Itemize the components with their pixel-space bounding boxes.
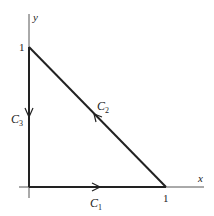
curve-c2 — [29, 47, 166, 187]
label-c1: C1 — [90, 196, 102, 212]
label-c2: C2 — [97, 99, 109, 115]
y-axis-label: y — [32, 11, 38, 23]
y-tick-one: 1 — [19, 41, 25, 53]
x-axis-label: x — [197, 172, 203, 184]
label-c3: C3 — [11, 112, 23, 128]
x-tick-one: 1 — [163, 192, 169, 204]
triangle-path-diagram: y x 1 1 C1 C2 C3 — [0, 0, 214, 216]
